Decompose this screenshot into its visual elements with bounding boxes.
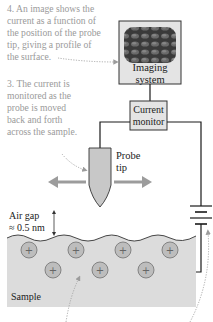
callout-arrow-step3	[62, 154, 85, 170]
ion-icon: +	[138, 262, 154, 278]
probe-tip-label: Probe tip	[116, 150, 141, 174]
ion-icon: +	[45, 262, 61, 278]
current-monitor-label: Current monitor	[130, 104, 167, 128]
wire	[167, 122, 201, 206]
ion-icon: +	[92, 262, 108, 278]
wire	[196, 224, 201, 272]
svg-text:+: +	[72, 245, 80, 256]
ion-icon: +	[21, 242, 37, 258]
svg-text:+: +	[119, 245, 127, 256]
air-gap-arrow-icon	[52, 210, 56, 236]
ion-icon: +	[115, 242, 131, 258]
right-arrow-icon	[114, 176, 152, 188]
ion-icon: +	[68, 242, 84, 258]
imaging-system-label: Imaging system	[119, 62, 181, 86]
svg-text:+: +	[142, 265, 150, 276]
svg-text:+: +	[25, 245, 33, 256]
svg-text:+: +	[166, 245, 174, 256]
left-arrow-icon	[48, 176, 86, 188]
caption-step4: 4. An image shows the current as a funct…	[7, 3, 101, 63]
sample-label: Sample	[11, 291, 41, 303]
surface-image	[124, 27, 176, 63]
ion-icon: +	[162, 242, 178, 258]
caption-step3: 3. The current is monitored as the probe…	[7, 78, 77, 138]
probe-tip-shape	[89, 148, 111, 207]
air-gap-label: Air gap ≈ 0.5 nm	[9, 210, 45, 234]
svg-text:+: +	[96, 265, 104, 276]
svg-text:+: +	[49, 265, 57, 276]
wire	[100, 122, 130, 148]
battery-icon	[190, 206, 212, 224]
